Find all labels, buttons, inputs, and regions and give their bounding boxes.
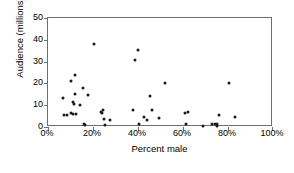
x-axis-tick-labels: 0%20%40%60%80%100% xyxy=(47,128,272,142)
x-tick-label: 100% xyxy=(260,128,283,138)
data-point xyxy=(69,80,72,83)
data-point xyxy=(138,123,141,126)
data-point xyxy=(82,87,85,90)
data-point xyxy=(146,119,149,122)
y-axis-tick xyxy=(44,105,48,106)
y-axis-tick-labels: 01020304050 xyxy=(0,17,43,126)
data-point xyxy=(142,116,145,119)
data-point xyxy=(101,112,104,115)
data-point xyxy=(187,111,190,114)
data-point xyxy=(185,122,188,125)
x-tick-label: 40% xyxy=(128,128,146,138)
data-point xyxy=(103,118,106,121)
data-point xyxy=(74,112,77,115)
y-tick-label: 10 xyxy=(33,100,43,109)
data-point xyxy=(148,95,151,98)
data-point xyxy=(78,104,81,107)
x-tick-label: 20% xyxy=(83,128,101,138)
data-point xyxy=(218,114,221,117)
data-point xyxy=(150,108,153,111)
data-point xyxy=(108,119,111,122)
data-point xyxy=(92,42,95,45)
y-tick-label: 30 xyxy=(33,56,43,65)
y-axis-tick xyxy=(44,40,48,41)
data-point xyxy=(61,96,64,99)
x-tick-label: 80% xyxy=(218,128,236,138)
x-axis-title: Percent male xyxy=(47,143,272,154)
y-axis-tick xyxy=(44,83,48,84)
y-tick-label: 40 xyxy=(33,34,43,43)
data-point xyxy=(65,113,68,116)
data-point xyxy=(216,124,219,127)
data-point xyxy=(158,117,161,120)
data-point xyxy=(74,92,77,95)
plot-area xyxy=(47,17,272,126)
data-point xyxy=(131,109,134,112)
y-axis-tick xyxy=(44,18,48,19)
data-point xyxy=(227,81,230,84)
data-point xyxy=(74,73,77,76)
scatter-chart: Audience (millions) 01020304050 0%20%40%… xyxy=(0,0,294,173)
data-point xyxy=(73,103,76,106)
x-tick-label: 60% xyxy=(173,128,191,138)
y-tick-label: 20 xyxy=(33,78,43,87)
data-point xyxy=(84,123,87,126)
data-point xyxy=(233,115,236,118)
data-point xyxy=(87,93,90,96)
data-point xyxy=(137,49,140,52)
data-point xyxy=(104,124,107,127)
data-point xyxy=(133,58,136,61)
y-axis-tick xyxy=(44,62,48,63)
data-point xyxy=(164,82,167,85)
x-tick-label: 0% xyxy=(40,128,53,138)
data-point xyxy=(102,109,105,112)
y-tick-label: 50 xyxy=(33,13,43,22)
